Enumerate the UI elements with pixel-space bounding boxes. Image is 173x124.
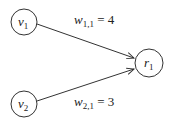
edge-label-w21: w2,1 = 3	[74, 94, 114, 111]
node-v2: v2	[11, 91, 37, 117]
neural-network-diagram: w1,1 = 4 w2,1 = 3 v1 v2 r1	[0, 0, 173, 124]
edge-v2-r1	[37, 69, 134, 101]
node-v1: v1	[11, 9, 37, 35]
node-r1: r1	[135, 49, 163, 77]
edge-label-w11: w1,1 = 4	[74, 12, 115, 29]
edge-v1-r1	[37, 24, 134, 58]
